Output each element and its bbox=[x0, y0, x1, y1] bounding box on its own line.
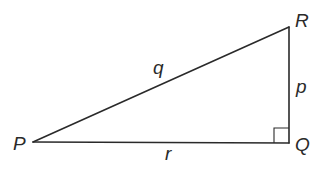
vertex-label-q: Q bbox=[295, 134, 310, 155]
side-label-p: p bbox=[295, 76, 307, 97]
side-label-q: q bbox=[153, 57, 164, 78]
side-q bbox=[33, 27, 289, 142]
right-angle-marker bbox=[274, 128, 289, 143]
vertex-label-r: R bbox=[295, 10, 309, 31]
side-label-r: r bbox=[165, 143, 172, 164]
vertex-label-p: P bbox=[13, 133, 26, 154]
side-r bbox=[33, 142, 289, 143]
right-triangle-diagram: P R Q q p r bbox=[0, 0, 320, 169]
